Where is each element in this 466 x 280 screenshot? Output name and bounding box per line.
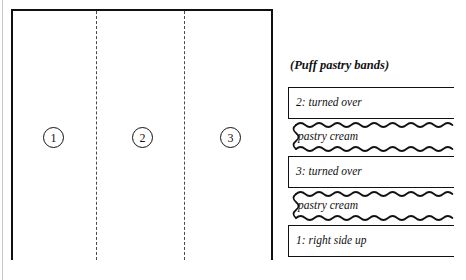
section-marker-1: 1: [43, 127, 64, 148]
sheet-left-edge: [11, 9, 13, 260]
band-label: pastry cream: [298, 130, 358, 142]
pastry-bands-legend: (Puff pastry bands) 2: turned over pastr…: [288, 58, 460, 253]
legend-caption: (Puff pastry bands): [290, 58, 389, 73]
band-label: 3: turned over: [296, 165, 362, 177]
section-marker-3: 3: [220, 127, 241, 148]
page-scan-edge: [2, 0, 3, 280]
band-row-dough-1: 1: right side up: [288, 225, 454, 257]
fold-line-1: [96, 11, 97, 260]
section-marker-2: 2: [132, 127, 153, 148]
band-stack: 2: turned over pastry cream 3: turned ov…: [288, 87, 460, 257]
band-row-cream-1: pastry cream: [288, 122, 454, 153]
pastry-bands-figure: 1 2 3 (Puff pastry bands) 2: turned over…: [0, 0, 466, 280]
band-label: pastry cream: [298, 199, 358, 211]
sheet-top-edge: [11, 9, 273, 11]
band-row-dough-3: 3: turned over: [288, 156, 454, 188]
band-label: 1: right side up: [296, 234, 367, 246]
band-row-dough-2: 2: turned over: [288, 87, 454, 119]
dough-sheet-diagram: 1 2 3: [11, 9, 273, 260]
band-label: 2: turned over: [296, 96, 362, 108]
fold-line-2: [184, 11, 185, 260]
sheet-right-edge: [271, 9, 273, 260]
band-row-cream-2: pastry cream: [288, 191, 454, 222]
